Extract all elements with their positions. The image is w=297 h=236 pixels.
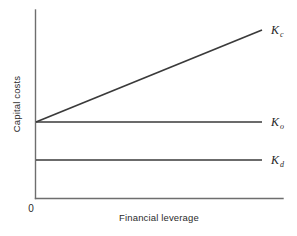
series-label-kc-symbol: K <box>270 23 280 37</box>
series-label-kc-subscript: c <box>280 30 284 39</box>
series-line-kc <box>36 30 262 122</box>
y-axis-title: Capital costs <box>11 76 22 132</box>
series-label-ko-subscript: o <box>280 122 284 131</box>
series-label-ko: K o <box>270 115 284 131</box>
series-label-ko-symbol: K <box>270 115 280 129</box>
axis-group <box>36 10 284 199</box>
line-chart-canvas: K c K o K d 0 Financial leverage Capital… <box>0 0 297 236</box>
x-axis-origin-tick-label: 0 <box>28 203 34 214</box>
series-label-kd: K d <box>270 153 285 169</box>
chart-figure: K c K o K d 0 Financial leverage Capital… <box>0 0 297 236</box>
series-group <box>36 30 262 160</box>
series-label-kd-subscript: d <box>280 160 285 169</box>
x-axis-title: Financial leverage <box>119 212 199 223</box>
series-label-kc: K c <box>270 23 284 39</box>
series-label-kd-symbol: K <box>270 153 280 167</box>
